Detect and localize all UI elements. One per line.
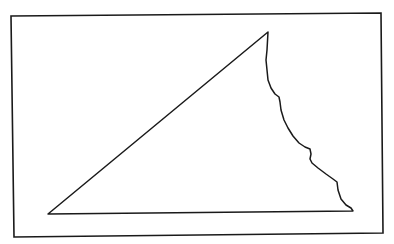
diagram-canvas	[0, 0, 394, 244]
triangle-shape	[48, 32, 353, 214]
frame-border	[11, 13, 383, 237]
